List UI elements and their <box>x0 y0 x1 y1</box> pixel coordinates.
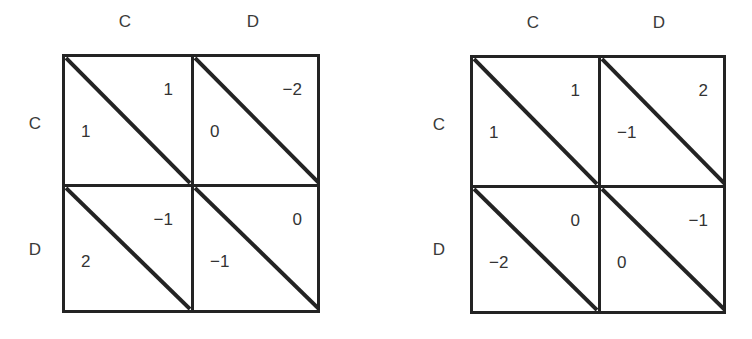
diagonal-divider-icon <box>65 187 191 310</box>
diagonal-divider-icon <box>473 58 598 185</box>
left-matrix-column-header-c: C <box>105 12 145 32</box>
left-matrix-cell-dc: −1 2 <box>65 187 191 310</box>
right-matrix-cell-cd-lower-payoff: −1 <box>617 124 636 142</box>
right-matrix-cell-dd-upper-payoff: −1 <box>689 212 708 230</box>
diagonal-divider-icon <box>194 187 320 310</box>
right-matrix-cell-cc-lower-payoff: 1 <box>489 124 498 142</box>
right-matrix-cell-cd: 2 −1 <box>601 58 726 185</box>
left-matrix-cell-cc-lower-payoff: 1 <box>81 123 90 141</box>
left-matrix-row-header-d: D <box>22 240 48 260</box>
left-matrix-cell-cc-upper-payoff: 1 <box>164 81 173 99</box>
left-matrix-cell-cd: −2 0 <box>194 57 320 184</box>
left-matrix-column-header-d: D <box>233 12 273 32</box>
right-matrix-column-header-d: D <box>639 13 679 33</box>
right-matrix-cell-cc: 1 1 <box>473 58 598 185</box>
right-matrix-cell-cc-upper-payoff: 1 <box>571 82 580 100</box>
right-matrix-row-header-d: D <box>426 240 452 260</box>
left-matrix-row-header-c: C <box>22 114 48 134</box>
left-matrix-cell-dd-lower-payoff: −1 <box>210 253 229 271</box>
payoff-matrices-figure: { "figure": { "type": "game-theory-bimat… <box>0 0 752 339</box>
right-matrix-cell-cd-upper-payoff: 2 <box>699 82 708 100</box>
left-matrix-cell-cc: 1 1 <box>65 57 191 184</box>
right-matrix-cell-dc-lower-payoff: −2 <box>489 254 508 272</box>
left-payoff-matrix: C D C D 1 1 −2 0 −1 2 <box>0 0 376 339</box>
diagonal-divider-icon <box>65 57 191 184</box>
left-matrix-cell-cd-lower-payoff: 0 <box>210 123 219 141</box>
diagonal-divider-icon <box>473 188 598 311</box>
left-matrix-cell-cd-upper-payoff: −2 <box>283 81 302 99</box>
right-matrix-cell-dc-upper-payoff: 0 <box>571 212 580 230</box>
left-matrix-cell-dd: 0 −1 <box>194 187 320 310</box>
right-matrix-cell-dd: −1 0 <box>601 188 726 311</box>
right-matrix-cell-dc: 0 −2 <box>473 188 598 311</box>
left-matrix-cell-dd-upper-payoff: 0 <box>293 211 302 229</box>
diagonal-divider-icon <box>194 57 320 184</box>
right-matrix-cell-dd-lower-payoff: 0 <box>617 254 626 272</box>
diagonal-divider-icon <box>601 188 726 311</box>
diagonal-divider-icon <box>601 58 726 185</box>
right-payoff-matrix: C D C D 1 1 2 −1 0 −2 <box>376 0 752 339</box>
left-matrix-grid: 1 1 −2 0 −1 2 0 −1 <box>62 54 320 313</box>
left-matrix-cell-dc-lower-payoff: 2 <box>81 253 90 271</box>
right-matrix-column-header-c: C <box>513 13 553 33</box>
left-matrix-cell-dc-upper-payoff: −1 <box>154 211 173 229</box>
right-matrix-grid: 1 1 2 −1 0 −2 −1 0 <box>470 55 726 314</box>
right-matrix-row-header-c: C <box>426 115 452 135</box>
